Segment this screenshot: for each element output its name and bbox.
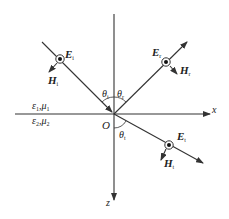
incident-angle-label: θi xyxy=(102,89,109,100)
reflected-ray xyxy=(114,42,187,114)
medium-1-label: ε1,μ1 xyxy=(32,101,49,112)
transmitted-e-label: Et xyxy=(177,131,186,143)
incident-h-field-arrow xyxy=(49,63,57,72)
reflected-h-label: Hr xyxy=(180,65,191,77)
reflected-e-field-out-icon xyxy=(162,58,170,66)
wave-diagram: Ei Hi Er Hr Et Ht θi θr θt ε1,μ1 ε2,μ2 O… xyxy=(0,0,229,219)
x-axis-label: x xyxy=(212,105,216,115)
reflected-angle-label: θr xyxy=(117,89,124,100)
transmitted-h-label: Ht xyxy=(164,158,174,170)
transmitted-e-field-out-icon xyxy=(165,141,173,149)
transmitted-angle-arc xyxy=(114,121,126,128)
z-axis-label: z xyxy=(106,198,110,208)
reflected-e-label: Er xyxy=(152,47,161,59)
transmitted-angle-label: θt xyxy=(119,130,126,141)
medium-2-label: ε2,μ2 xyxy=(32,116,49,127)
incident-e-field-out-icon xyxy=(56,55,64,63)
origin-label: O xyxy=(102,120,110,131)
transmitted-ray xyxy=(114,114,203,163)
reflected-h-field-arrow xyxy=(170,66,177,74)
incident-e-label: Ei xyxy=(65,49,74,61)
incident-h-label: Hi xyxy=(48,75,58,87)
